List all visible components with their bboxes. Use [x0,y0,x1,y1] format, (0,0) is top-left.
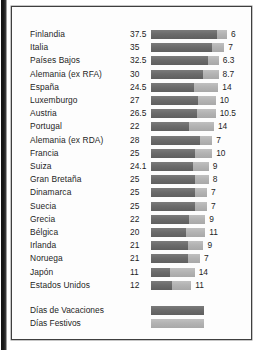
vacation-days-value: 11 [130,267,139,277]
stacked-bar [151,175,209,184]
country-label: Gran Bretaña [30,174,81,184]
holiday-days-value: 14 [218,121,227,131]
bar-segment-vacation [151,281,172,290]
vacation-days-value: 21 [130,240,139,250]
bar-segment-vacation [151,109,197,118]
bar-segment-vacation [151,96,198,105]
bar-segment-vacation [151,83,194,92]
bar-segment-vacation [151,254,188,263]
holiday-days-value: 11 [195,280,204,290]
country-label: Suiza [30,161,51,171]
holiday-days-value: 7 [216,135,221,145]
scan-edge-artifact [0,0,7,350]
country-label: Noruega [30,253,63,263]
bar-segment-holiday [189,122,213,131]
holiday-days-value: 10.5 [220,108,236,118]
country-label: Alemania (ex RFA) [30,69,102,79]
vacation-days-value: 28 [130,135,139,145]
vacation-days-value: 25 [130,201,139,211]
country-label: Alemania (ex RDA) [30,135,103,145]
vacation-days-value: 35 [130,42,139,52]
country-label: Irlanda [30,240,56,250]
bar-segment-vacation [151,43,212,52]
legend-swatch [151,306,204,315]
holiday-days-value: 6 [231,29,236,39]
stacked-bar [151,30,227,39]
country-label: Dinamarca [30,187,71,197]
stacked-bar [151,70,219,79]
stacked-bar [151,162,209,171]
bar-segment-holiday [186,228,205,237]
bar-segment-vacation [151,149,195,158]
stacked-bar [151,83,218,92]
stacked-bar [151,149,212,158]
stacked-bar [151,96,216,105]
holiday-days-value: 7 [211,187,216,197]
bar-segment-vacation [151,215,189,224]
bar-segment-vacation [151,56,208,65]
holiday-days-value: 14 [199,267,208,277]
bar-segment-vacation [151,30,217,39]
vacation-days-value: 22 [130,214,139,224]
holiday-days-value: 7 [228,42,233,52]
bar-segment-holiday [194,83,218,92]
stacked-bar [151,202,207,211]
vacation-days-value: 24.5 [130,82,146,92]
stacked-bar [151,43,224,52]
country-label: Países Bajos [30,55,80,65]
vacation-days-value: 37.5 [130,29,146,39]
legend-swatch [151,319,204,328]
country-label: España [30,82,59,92]
vacation-days-value: 25 [130,148,139,158]
bar-segment-vacation [151,188,195,197]
bar-segment-holiday [212,43,224,52]
legend-item: Días Festivos [12,317,251,332]
holiday-days-value: 8 [213,174,218,184]
bar-segment-holiday [170,268,194,277]
bar-segment-holiday [200,136,212,145]
vacation-days-value: 24.1 [130,161,146,171]
stacked-bar [151,215,205,224]
country-label: Italia [30,42,48,52]
holiday-days-value: 8.7 [223,69,235,79]
bar-segment-holiday [195,188,207,197]
bar-segment-vacation [151,228,186,237]
holiday-days-value: 9 [209,214,214,224]
country-label: Suecia [30,201,56,211]
holiday-days-value: 7 [204,253,209,263]
bar-segment-vacation [151,162,193,171]
vacation-days-value: 25 [130,187,139,197]
bar-segment-vacation [151,241,188,250]
bar-segment-holiday [208,56,219,65]
holiday-days-value: 7 [211,201,216,211]
legend-label: Días de Vacaciones [30,305,104,315]
bar-row: Estados Unidos1211 [12,279,251,294]
bar-segment-holiday [188,241,204,250]
country-label: Estados Unidos [30,280,90,290]
stacked-bar [151,188,207,197]
vacation-days-value: 32.5 [130,55,146,65]
bar-segment-holiday [195,202,207,211]
bar-segment-holiday [197,109,215,118]
stacked-bar [151,268,195,277]
bar-segment-vacation [151,70,203,79]
country-label: Francia [30,148,59,158]
stacked-bar [151,56,219,65]
vacation-days-value: 22 [130,121,139,131]
country-label: Austria [30,108,57,118]
holiday-days-value: 6.3 [223,55,235,65]
vacation-days-value: 26.5 [130,108,146,118]
bar-segment-holiday [189,215,205,224]
stacked-bar [151,281,191,290]
stacked-bar [151,254,200,263]
stacked-bar [151,136,212,145]
country-label: Luxemburgo [30,95,78,105]
country-label: Finlandia [30,29,65,39]
holiday-days-value: 10 [220,95,229,105]
vacation-days-value: 30 [130,69,139,79]
stacked-bar [151,109,216,118]
vacation-days-value: 27 [130,95,139,105]
vacation-days-value: 12 [130,280,139,290]
chart-frame: Finlandia37.56Italia357Países Bajos32.56… [11,6,252,340]
stacked-bar-chart: Finlandia37.56Italia357Países Bajos32.56… [12,7,251,339]
